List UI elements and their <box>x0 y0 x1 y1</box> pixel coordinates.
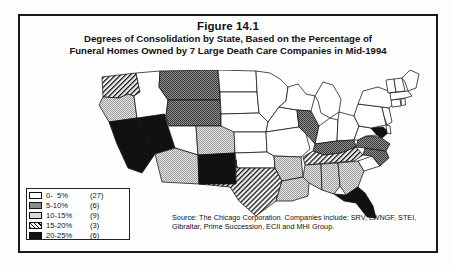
figure-subtitle-line-2: Funeral Homes Owned by 7 Large Death Car… <box>26 45 430 57</box>
legend-label: 0- 5% <box>46 191 90 200</box>
legend-swatch-solid-black-icon <box>29 232 42 239</box>
legend-count: (6) <box>90 201 99 210</box>
state-CT <box>391 99 401 107</box>
legend-item-0-5: 0- 5% (27) <box>29 190 127 200</box>
state-AL <box>321 163 340 194</box>
legend-item-20-25: 20-25% (6) <box>29 230 127 240</box>
state-OR <box>99 94 137 122</box>
legend-label: 5-10% <box>46 201 90 210</box>
figure-subtitle-line-1: Degrees of Consolidation by State, Based… <box>26 33 430 45</box>
legend-item-5-10: 5-10% (6) <box>29 200 127 210</box>
state-MI <box>315 82 341 118</box>
legend-swatch-light-dotted-icon <box>29 212 42 219</box>
legend-count: (27) <box>90 191 104 200</box>
legend-label: 20-25% <box>46 231 90 240</box>
state-WA <box>102 73 140 98</box>
legend-item-10-15: 10-15% (9) <box>29 210 127 220</box>
state-OK <box>235 152 275 168</box>
source-line-2: Gibraltar, Prime Succession, ECII and MH… <box>172 223 434 232</box>
state-NE <box>221 113 268 132</box>
state-IN <box>315 118 338 144</box>
state-NM <box>198 153 236 184</box>
state-MT <box>159 70 220 100</box>
legend-swatch-dark-dotted-icon <box>29 202 42 209</box>
state-CO <box>196 126 235 155</box>
map-svg <box>80 70 430 220</box>
legend-label: 10-15% <box>46 211 90 220</box>
figure-frame: Figure 14.1 Degrees of Consolidation by … <box>18 14 438 253</box>
legend-swatch-diagonal-hatch-icon <box>29 222 42 229</box>
legend-count: (6) <box>90 231 99 240</box>
legend-label: 15-20% <box>46 221 90 230</box>
state-PA <box>354 104 386 128</box>
state-WY <box>166 100 221 126</box>
legend-count: (3) <box>90 221 99 230</box>
state-AZ <box>155 148 199 184</box>
legend-count: (9) <box>90 211 99 220</box>
source-note: Source: The Chicago Corporation. Compani… <box>172 214 434 231</box>
legend-item-15-20: 15-20% (3) <box>29 220 127 230</box>
state-KS <box>234 132 267 153</box>
title-block: Figure 14.1 Degrees of Consolidation by … <box>20 16 436 57</box>
figure-number: Figure 14.1 <box>26 20 430 33</box>
legend-swatch-white-open-icon <box>29 192 42 199</box>
map-legend: 0- 5% (27) 5-10% (6) 10-15% (9) 15-20% (… <box>26 188 130 240</box>
state-RI <box>401 99 406 106</box>
us-choropleth-map <box>80 70 430 220</box>
state-ND <box>218 70 257 92</box>
state-DE <box>386 125 391 134</box>
state-SD <box>220 92 259 114</box>
